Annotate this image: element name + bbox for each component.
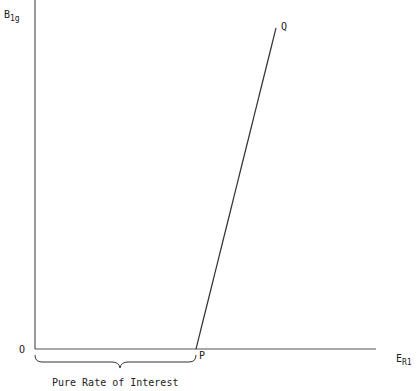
y-axis-label-sub: 1g xyxy=(10,14,20,23)
line-pq xyxy=(196,28,276,349)
diagram-svg xyxy=(0,0,420,391)
origin-label: O xyxy=(19,345,25,355)
brace-caption: Pure Rate of Interest xyxy=(52,378,178,388)
point-q-label: Q xyxy=(281,22,287,32)
y-axis-label: B1g xyxy=(4,10,20,20)
diagram-canvas: B1g Q O P ER1 Pure Rate of Interest xyxy=(0,0,420,391)
brace-pure-rate xyxy=(35,355,196,368)
x-axis-label: ER1 xyxy=(396,354,412,364)
x-axis-label-sub: R1 xyxy=(402,358,412,367)
point-p-label: P xyxy=(199,351,205,361)
